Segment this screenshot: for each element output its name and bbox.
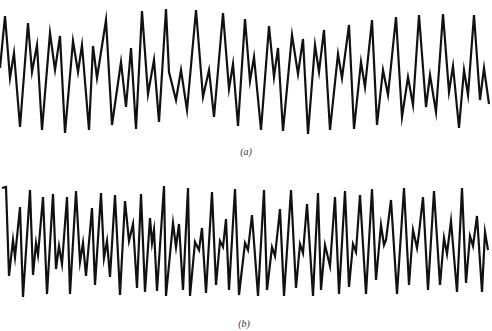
waveform-a-plot [0,0,492,140]
waveform-a-line [0,9,489,134]
waveform-figure: (a) (b) [0,0,492,331]
panel-a-caption: (a) [226,146,266,157]
panel-b-caption: (b) [224,318,264,329]
waveform-b-line [2,186,488,297]
waveform-b-plot [0,175,492,300]
